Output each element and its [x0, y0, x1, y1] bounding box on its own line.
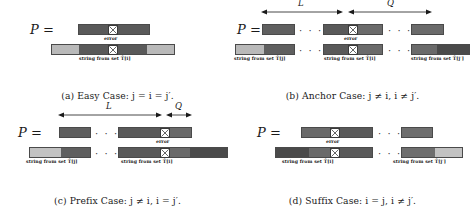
string-set-label-j-c: string from set T̂[j] [26, 159, 78, 164]
pattern-bar-b-left [262, 24, 295, 35]
bar-segment [236, 45, 264, 54]
measure-arrow-L-b [261, 8, 343, 16]
caption-easy-case: (a) Easy Case: j = i = j′. [0, 90, 235, 101]
error-label-c: error [156, 139, 169, 144]
arrow-label-L-c: L [106, 101, 112, 111]
string-set-label-i-b: string from set T̂[i] [324, 56, 376, 61]
panel-prefix-case: P = L Q [0, 105, 235, 210]
bar-segment [60, 128, 90, 137]
pattern-bar-b-right [411, 24, 444, 35]
diagram-anchor-case: P = L Q [235, 0, 470, 78]
panel-easy-case: P = error string from set T̂[i] (a) [0, 0, 235, 105]
string-set-label-i-d: string from set T̂[i] [282, 159, 334, 164]
panel-suffix-case: P = · · · error · [235, 105, 470, 210]
bar-segment [190, 148, 227, 157]
string-set-label-jprime-d: string from set T̂[j′] [393, 159, 446, 164]
text-bar-b-left [235, 44, 295, 55]
caption-prefix-case: (c) Prefix Case: j ≠ i, i = j′. [0, 195, 235, 206]
error-marker-c [160, 128, 170, 138]
pattern-bar-c-right [118, 127, 192, 138]
error-marker-text-d [330, 148, 340, 158]
measure-arrow-Q-b [348, 8, 432, 16]
bar-segment [263, 25, 294, 34]
arrow-label-Q-b: Q [387, 0, 394, 8]
error-marker-text-b [348, 45, 358, 55]
string-set-label-i-c: string from set T̂[i] [121, 159, 173, 164]
ellipsis-b-bottom-left: · · · [299, 46, 323, 56]
arrow-label-L-b: L [298, 0, 304, 8]
string-set-label-i: string from set T̂[i] [79, 56, 131, 61]
error-marker-a [108, 25, 118, 35]
ellipsis-b-top-left: · · · [299, 26, 323, 36]
ellipsis-d-top: · · · [378, 129, 402, 139]
error-label-b: error [344, 36, 357, 41]
bar-segment [336, 128, 372, 137]
ellipsis-b-bottom-right: · · · [388, 46, 412, 56]
diagram-easy-case: P = error string from set T̂[i] [0, 0, 235, 78]
bar-segment [402, 148, 435, 157]
bar-segment [435, 148, 462, 157]
panel-anchor-case: P = L Q [235, 0, 470, 105]
pattern-bar-c-left [59, 127, 91, 138]
pattern-label-b: P = [237, 22, 261, 37]
measure-arrow-L-c [58, 111, 162, 119]
text-bar-c-left [29, 147, 91, 158]
arrow-label-Q-c: Q [175, 101, 182, 111]
error-label-d: error [326, 139, 339, 144]
string-set-label-j-b: string from set T̂[j] [234, 56, 286, 61]
bar-segment [119, 148, 164, 157]
string-set-label-jprime-b: string from set T̂[j′] [411, 56, 464, 61]
figure-grid: P = error string from set T̂[i] (a) [0, 0, 470, 210]
ellipsis-c-bottom: · · · [95, 149, 119, 159]
diagram-suffix-case: P = · · · error · [235, 105, 470, 183]
caption-suffix-case: (d) Suffix Case: i = j, i ≠ j′. [235, 195, 470, 206]
bar-segment [61, 148, 90, 157]
text-bar-d-left [275, 147, 373, 158]
bar-segment [276, 148, 309, 157]
bar-segment [264, 45, 294, 54]
text-bar-b-right [411, 44, 470, 55]
error-label-a: error [104, 36, 117, 41]
bar-segment [147, 45, 174, 54]
ellipsis-c-top: · · · [95, 129, 119, 139]
pattern-bar-d-right [401, 127, 433, 138]
error-marker-b [348, 25, 358, 35]
pattern-label-a: P = [30, 22, 54, 37]
text-bar-c-right [118, 147, 228, 158]
bar-segment [412, 25, 443, 34]
bar-segment [52, 45, 79, 54]
diagram-prefix-case: P = L Q [0, 105, 235, 183]
measure-arrow-Q-c [166, 111, 192, 119]
bar-segment [402, 128, 432, 137]
bar-segment [30, 148, 61, 157]
bar-segment [437, 45, 469, 54]
error-marker-text-c [160, 148, 170, 158]
bar-segment [119, 128, 164, 137]
bar-segment [336, 148, 372, 157]
ellipsis-b-top-right: · · · [388, 26, 412, 36]
error-marker-d [330, 128, 340, 138]
error-marker-text-a [108, 45, 118, 55]
caption-anchor-case: (b) Anchor Case: j ≠ i, i ≠ j′. [235, 90, 470, 101]
bar-segment [412, 45, 437, 54]
pattern-label-d: P = [257, 125, 281, 140]
bar-segment [114, 25, 149, 34]
ellipsis-d-bottom: · · · [378, 149, 402, 159]
pattern-label-c: P = [18, 125, 42, 140]
text-bar-d-right [401, 147, 463, 158]
